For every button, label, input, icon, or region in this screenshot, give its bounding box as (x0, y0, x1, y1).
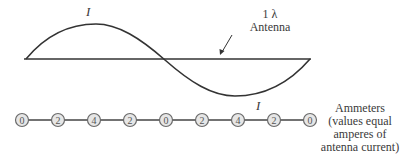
ammeter: 4 (88, 114, 101, 127)
ammeter-value: 2 (200, 115, 205, 126)
antenna-pointer-arrow (222, 35, 232, 52)
ammeter-value: 4 (236, 115, 241, 126)
antenna-name-label: Antenna (215, 21, 325, 34)
ammeter: 2 (196, 114, 209, 127)
ammeter-chain: 024202420 (16, 114, 317, 127)
ammeter: 2 (268, 114, 281, 127)
ammeter: 0 (160, 114, 173, 127)
ammeter: 2 (52, 114, 65, 127)
ammeter-value: 2 (128, 115, 133, 126)
ammeter: 4 (232, 114, 245, 127)
ammeter-value: 0 (20, 115, 25, 126)
ammeters-caption: Ammeters (values equal amperes of antenn… (290, 102, 415, 154)
ammeter-value: 2 (56, 115, 61, 126)
ammeter-value: 4 (92, 115, 97, 126)
ammeter: 0 (16, 114, 29, 127)
current-distribution-curve (26, 24, 310, 96)
ammeter: 2 (124, 114, 137, 127)
ammeters-caption-line: antenna current) (290, 141, 415, 154)
current-label-bottom: I (256, 98, 260, 114)
ammeter-value: 0 (164, 115, 169, 126)
antenna-label: 1 λ Antenna (215, 8, 325, 34)
ammeter-value: 2 (272, 115, 277, 126)
current-label-top: I (86, 4, 90, 20)
